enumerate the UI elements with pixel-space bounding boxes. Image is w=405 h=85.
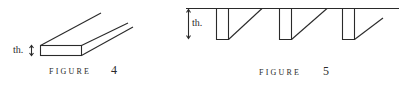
- figure-5-caption-number: 5: [323, 64, 329, 79]
- figure-5-thickness-label: th.: [192, 17, 202, 28]
- figure-4-thickness-label: th.: [13, 44, 23, 55]
- figure-4-board: [30, 13, 134, 56]
- figure-4-caption-word: FIGURE: [49, 67, 91, 76]
- figure-4-caption-number: 4: [111, 63, 117, 78]
- tooth-3-slot: [343, 9, 355, 40]
- tooth-1-diagonal: [229, 9, 263, 40]
- tooth-3-diagonal: [355, 18, 384, 40]
- figure-5-caption-word: FIGURE: [259, 68, 301, 77]
- figure-5-sawtooth: [186, 9, 399, 40]
- tooth-1-slot: [217, 9, 229, 40]
- board-front-face: [41, 46, 82, 56]
- tooth-2-diagonal: [292, 9, 328, 40]
- tooth-2-slot: [280, 9, 292, 40]
